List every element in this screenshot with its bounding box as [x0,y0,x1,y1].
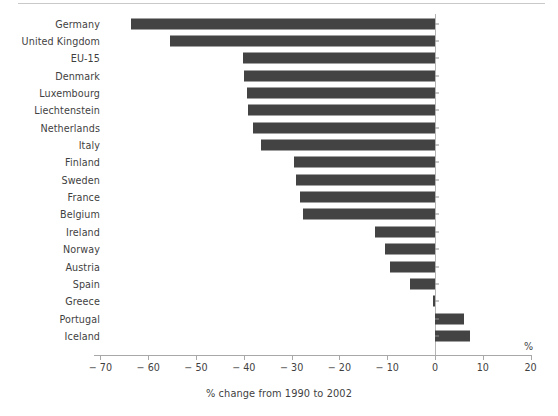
bar [435,313,464,324]
bar-row: United Kingdom [0,32,558,49]
x-axis-tick-label: − 10 [376,362,399,373]
bar [410,278,435,289]
bar [131,18,435,29]
category-tick-mark [435,249,439,250]
category-tick-mark [435,318,439,319]
category-label: Liechtenstein [34,105,100,116]
bar-row: Germany [0,15,558,32]
x-axis-tick-label: − 30 [280,362,303,373]
x-axis-tick-label: − 60 [137,362,160,373]
category-tick-mark [435,127,439,128]
x-axis-tick-label: 20 [524,362,536,373]
category-label: Luxembourg [39,88,100,99]
x-axis-unit-label: % [524,341,533,352]
x-axis-title: % change from 1990 to 2002 [0,388,558,399]
x-axis-tick [292,355,293,360]
category-tick-mark [435,283,439,284]
bar [385,244,435,255]
x-axis-tick [339,355,340,360]
bar-row: Spain [0,275,558,292]
category-label: Portugal [59,313,100,324]
x-axis-tick-label: 0 [432,362,438,373]
category-label: EU-15 [71,53,100,64]
bar [261,140,435,151]
x-axis-tick-label: − 20 [328,362,351,373]
bar-row: Austria [0,258,558,275]
x-axis-tick [435,355,436,360]
x-axis-tick [387,355,388,360]
bar-row: Finland [0,154,558,171]
bar-row: Italy [0,136,558,153]
bar [435,330,470,341]
category-label: Iceland [65,330,100,341]
category-tick-mark [435,266,439,267]
category-tick-mark [435,162,439,163]
category-label: Spain [73,278,100,289]
bar-row: Greece [0,293,558,310]
x-axis-tick-label: 10 [477,362,489,373]
bar [244,70,435,81]
bar-row: Ireland [0,223,558,240]
category-label: Italy [79,140,100,151]
category-tick-mark [435,335,439,336]
category-tick-mark [435,40,439,41]
x-axis-tick [244,355,245,360]
x-axis-tick-label: − 40 [232,362,255,373]
category-tick-mark [435,214,439,215]
category-label: Denmark [55,70,100,81]
bar-row: Portugal [0,310,558,327]
x-axis-tick [196,355,197,360]
bar [375,226,435,237]
bar-row: Iceland [0,327,558,344]
bar [170,35,435,46]
bar [303,209,435,220]
bar [243,53,435,64]
category-tick-mark [435,23,439,24]
bar-row: Sweden [0,171,558,188]
category-label: Austria [65,261,100,272]
category-label: France [67,192,100,203]
chart-figure: GermanyUnited KingdomEU-15DenmarkLuxembo… [0,0,558,416]
bar-chart-plot-area: GermanyUnited KingdomEU-15DenmarkLuxembo… [0,0,558,416]
category-label: Germany [55,18,100,29]
category-tick-mark [435,110,439,111]
x-axis-tick [148,355,149,360]
bar [300,192,435,203]
x-axis-tick [483,355,484,360]
category-label: Ireland [66,226,100,237]
category-label: Norway [63,244,100,255]
x-axis-tick [100,355,101,360]
x-axis-tick-label: − 70 [89,362,112,373]
x-axis-tick-label: − 50 [184,362,207,373]
bar [294,157,435,168]
category-label: Sweden [61,174,100,185]
bar [296,174,435,185]
bar-row: Denmark [0,67,558,84]
bar-row: Belgium [0,206,558,223]
bar-row: Netherlands [0,119,558,136]
bar [248,105,435,116]
category-tick-mark [435,93,439,94]
bar-row: Norway [0,241,558,258]
category-tick-mark [435,58,439,59]
bar [253,122,435,133]
category-tick-mark [435,301,439,302]
category-label: Netherlands [40,122,100,133]
x-axis-line [94,355,532,356]
category-label: Greece [65,296,100,307]
bar-row: Liechtenstein [0,102,558,119]
category-label: Finland [65,157,100,168]
category-label: Belgium [60,209,100,220]
category-tick-mark [435,231,439,232]
category-tick-mark [435,179,439,180]
category-tick-mark [435,145,439,146]
category-tick-mark [435,197,439,198]
bar-row: EU-15 [0,50,558,67]
category-tick-mark [435,75,439,76]
category-label: United Kingdom [22,35,100,46]
x-axis-tick [531,355,532,360]
bar-row: France [0,189,558,206]
bar [247,88,435,99]
bar [390,261,435,272]
bar-row: Luxembourg [0,84,558,101]
